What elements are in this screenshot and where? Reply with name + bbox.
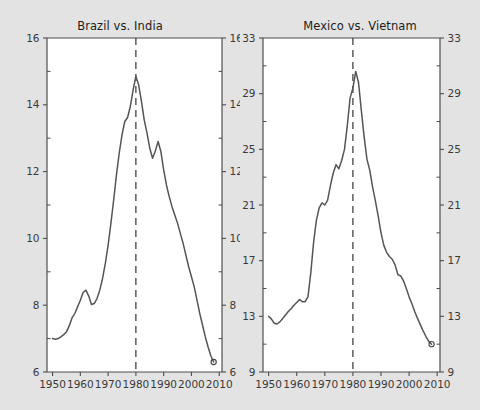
x-tick-label: 1990 — [368, 378, 395, 390]
x-tick-label: 2000 — [396, 378, 423, 390]
y-tick-label-right: 9 — [448, 366, 455, 378]
x-tick-label: 2000 — [178, 378, 205, 390]
x-tick-label: 1960 — [283, 378, 310, 390]
y-tick-label-right: 12 — [230, 165, 241, 177]
x-tick-label: 1980 — [340, 378, 367, 390]
y-tick-label-right: 14 — [230, 98, 241, 110]
y-tick-label-left: 8 — [33, 299, 40, 311]
y-tick-label-right: 33 — [448, 32, 461, 44]
y-tick-label-right: 8 — [230, 299, 237, 311]
y-tick-label-right: 16 — [230, 32, 241, 44]
y-tick-label-left: 16 — [26, 32, 40, 44]
x-tick-label: 1970 — [95, 378, 122, 390]
y-tick-label-left: 25 — [242, 143, 255, 155]
x-tick-label: 1980 — [123, 378, 150, 390]
x-tick-label: 1950 — [39, 378, 66, 390]
y-tick-label-left: 12 — [26, 165, 39, 177]
y-tick-label-right: 10 — [230, 232, 241, 244]
y-tick-label-left: 17 — [242, 254, 255, 266]
x-tick-label: 2010 — [424, 378, 451, 390]
x-tick-label: 1960 — [67, 378, 94, 390]
y-tick-label-left: 13 — [242, 310, 255, 322]
chart-panel-brazil-india: Brazil vs. India 66881010121214141616195… — [0, 0, 240, 410]
y-tick-label-left: 29 — [242, 87, 255, 99]
plot-area-right: 9913131717212125252929333319501960197019… — [240, 0, 480, 410]
x-tick-label: 2010 — [206, 378, 233, 390]
figure-container: Brazil vs. India 66881010121214141616195… — [0, 0, 480, 410]
plot-background — [47, 38, 222, 372]
y-tick-label-left: 6 — [33, 366, 40, 378]
y-tick-label-left: 9 — [249, 366, 256, 378]
x-tick-label: 1970 — [311, 378, 338, 390]
plot-background — [263, 38, 440, 372]
y-tick-label-right: 13 — [448, 310, 461, 322]
y-tick-label-right: 17 — [448, 254, 461, 266]
y-tick-label-right: 6 — [230, 366, 237, 378]
y-tick-label-left: 10 — [26, 232, 39, 244]
chart-panel-mexico-vietnam: Mexico vs. Vietnam 991313171721212525292… — [240, 0, 480, 410]
y-tick-label-right: 21 — [448, 199, 461, 211]
x-tick-label: 1950 — [255, 378, 282, 390]
x-tick-label: 1990 — [150, 378, 177, 390]
y-tick-label-right: 25 — [448, 143, 461, 155]
y-tick-label-left: 14 — [26, 98, 40, 110]
y-tick-label-left: 21 — [242, 199, 255, 211]
y-tick-label-right: 29 — [448, 87, 461, 99]
plot-area-left: 6688101012121414161619501960197019801990… — [0, 0, 240, 410]
y-tick-label-left: 33 — [242, 32, 255, 44]
